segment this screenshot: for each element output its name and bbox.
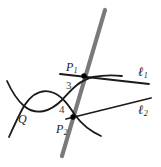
label-line-ell-2: ℓ2: [138, 103, 148, 118]
label-line-ell-1: ℓ1: [138, 65, 148, 80]
label-node-q: Q: [18, 113, 27, 125]
label-multiplicity-4: 4: [59, 104, 65, 115]
label-multiplicity-3: 3: [66, 80, 72, 91]
label-point-p2: P2: [56, 123, 67, 136]
point-marker-P2: [70, 114, 75, 119]
point-marker-P1: [81, 73, 86, 78]
figure-container: P1 P2 Q ℓ1 ℓ2 3 4: [0, 0, 161, 167]
geometry-canvas: [0, 0, 161, 167]
label-point-p1: P1: [66, 61, 77, 74]
